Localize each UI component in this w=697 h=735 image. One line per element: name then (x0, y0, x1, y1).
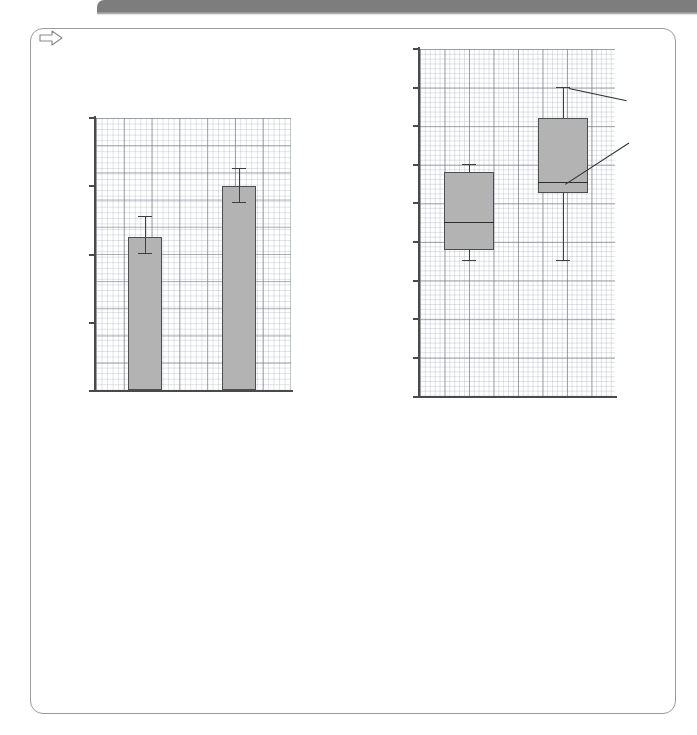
box-plot-y-tick-2 (413, 357, 418, 359)
box-plot-y-tick-18 (413, 48, 418, 50)
whisker-cap-top-age-7 (556, 87, 570, 88)
box-plot-y-axis-label (360, 120, 390, 350)
whisker-cap-bottom-age-7 (556, 260, 570, 261)
bar-age-7 (222, 186, 256, 390)
error-bar-cap-bottom-age-8 (138, 253, 152, 254)
error-bar-cap-bottom-age-7 (232, 202, 246, 203)
box-plot-y-tick-8 (413, 241, 418, 243)
median-line-age-8 (444, 222, 494, 223)
bar-chart-x-axis (94, 390, 293, 392)
box-plot-y-tick-14 (413, 125, 418, 127)
box-plot-y-axis (418, 47, 420, 398)
top-banner-shadow (97, 12, 697, 15)
median-line-age-7 (538, 182, 588, 183)
error-bar-cap-top-age-7 (232, 168, 246, 169)
box-plot-y-tick-12 (413, 164, 418, 166)
whisker-cap-top-age-8 (462, 164, 476, 165)
box-plot-y-tick-6 (413, 280, 418, 282)
box-plot-x-axis (418, 396, 617, 398)
bar-chart-y-tick-8 (89, 254, 94, 256)
error-bar-line-age-7 (239, 169, 240, 203)
bar-chart-y-tick-12 (89, 185, 94, 187)
bar-chart-y-axis-label (36, 112, 66, 382)
box-plot-y-tick-4 (413, 318, 418, 320)
box-plot-y-tick-16 (413, 87, 418, 89)
error-bar-cap-top-age-8 (138, 216, 152, 217)
box-age-8 (444, 172, 494, 249)
bar-chart-y-tick-16 (89, 117, 94, 119)
bar-chart-plot-area (96, 118, 291, 390)
bar-chart (34, 100, 334, 445)
bar-chart-y-tick-0 (89, 390, 94, 392)
error-bar-line-age-8 (145, 217, 146, 254)
whisker-cap-bottom-age-8 (462, 260, 476, 261)
bar-chart-major-grid (96, 118, 291, 390)
bar-chart-y-tick-4 (89, 322, 94, 324)
box-plot-y-tick-0 (413, 396, 418, 398)
bar-chart-y-axis (94, 116, 96, 392)
box-plot-chart (358, 30, 658, 445)
bar-age-8 (128, 237, 162, 390)
right-arrow-icon (38, 29, 64, 47)
box-plot-y-tick-10 (413, 202, 418, 204)
box-plot-plot-area (420, 49, 615, 396)
